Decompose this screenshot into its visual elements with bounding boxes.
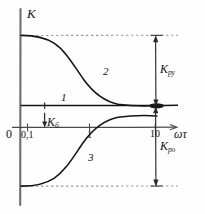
curve-label-2: 2 [103,66,109,77]
curve-label-3: 3 [88,152,94,163]
lower-dimension-label: Kро [160,140,175,153]
kb-marker-sub: б [55,121,59,130]
kb-marker-base: K [47,115,55,129]
lower-dimension-arrow-bottom [153,180,158,187]
kb-marker-label: Kб [47,116,59,129]
x-axis-label: ωτ [174,128,187,140]
x-tick-label-1: 1 [87,130,92,140]
upper-dimension-sub: ру [168,68,175,77]
y-axis-label: K [27,7,36,20]
upper-dimension-arrow-top [153,35,158,42]
x-tick-label-10: 10 [150,129,160,139]
figure-canvas: K 0 0,1 1 10 ωτ Kб 1 2 3 Kру Kро [0,0,205,214]
lower-dimension-sub: ро [168,145,175,154]
origin-label: 0 [6,128,12,140]
curve-label-1: 1 [61,92,67,103]
upper-dimension-base: K [160,62,168,76]
plot-svg [0,0,205,214]
upper-dimension-label: Kру [160,63,175,76]
x-tick-label-0point1: 0,1 [21,130,34,140]
lower-dimension-base: K [160,139,168,153]
curve-2-path [21,35,157,106]
